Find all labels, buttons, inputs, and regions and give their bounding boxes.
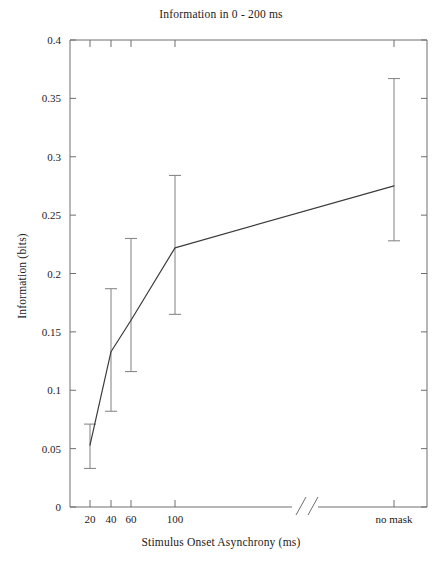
y-tick-label: 0.25 (42, 209, 62, 221)
axes-frame (70, 40, 427, 507)
y-tick-label: 0.3 (47, 151, 61, 163)
error-bar-group (84, 79, 400, 469)
y-tick-label: 0.05 (42, 443, 62, 455)
error-bar (388, 79, 400, 241)
error-bar (125, 238, 137, 371)
error-bar (84, 424, 96, 468)
x-tick-label: 100 (167, 513, 184, 525)
axis-break-marker (292, 497, 318, 516)
y-tick-group: 00.050.10.150.20.250.30.350.4 (42, 34, 427, 513)
x-tick-label: 60 (126, 513, 138, 525)
plot-area: 00.050.10.150.20.250.30.350.4 204060100n… (0, 0, 442, 566)
error-bar (169, 175, 181, 314)
y-tick-label: 0.15 (42, 326, 62, 338)
data-series-line (90, 186, 394, 445)
x-tick-group: 204060100no mask (85, 40, 413, 525)
x-tick-label: 20 (85, 513, 97, 525)
y-tick-label: 0.2 (47, 268, 61, 280)
data-line (90, 186, 394, 445)
y-tick-label: 0.4 (47, 34, 61, 46)
y-tick-label: 0.35 (42, 92, 62, 104)
axis-break-mask (292, 498, 318, 516)
x-tick-label: 40 (106, 513, 118, 525)
plot-frame (70, 40, 427, 507)
x-tick-label: no mask (376, 513, 413, 525)
y-tick-label: 0 (56, 501, 62, 513)
error-bar (105, 289, 117, 412)
figure: Information in 0 - 200 ms Information (b… (0, 0, 442, 566)
y-tick-label: 0.1 (47, 384, 61, 396)
